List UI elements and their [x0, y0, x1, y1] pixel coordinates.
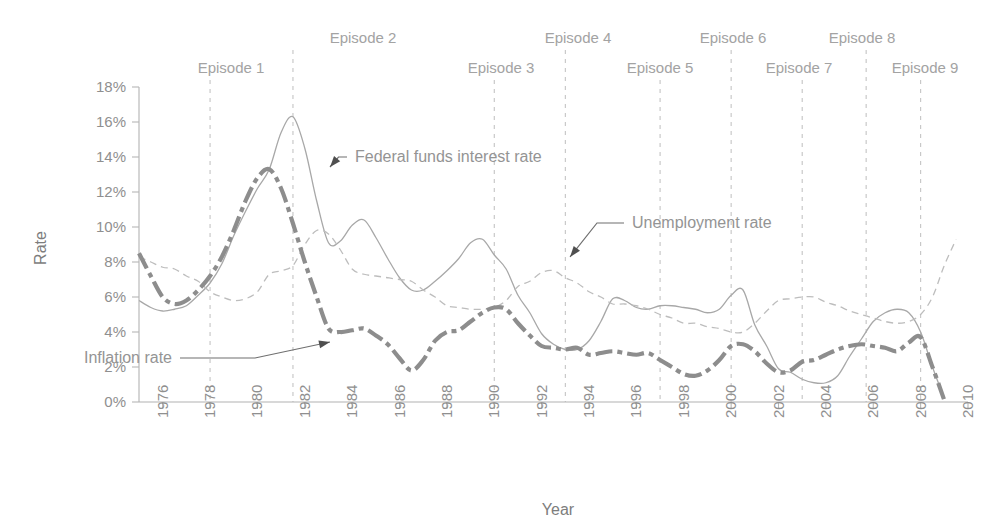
episode-label: Episode 8 — [829, 29, 896, 46]
x-tick-label: 2002 — [770, 385, 787, 418]
y-tick-label: 12% — [96, 183, 126, 200]
chart-plot-area: 0%2%4%6%8%10%12%14%16%18% 19761978198019… — [0, 0, 1004, 527]
episode-label: Episode 4 — [545, 29, 612, 46]
x-tick-label: 1980 — [248, 385, 265, 418]
x-tick-label: 2006 — [864, 385, 881, 418]
y-tick-label: 0% — [104, 393, 126, 410]
episode-label: Episode 6 — [700, 29, 767, 46]
annotation-leader-line — [180, 342, 330, 358]
y-tick-label: 16% — [96, 113, 126, 130]
episode-label: Episode 9 — [892, 59, 959, 76]
y-axis-title: Rate — [32, 231, 49, 265]
x-tick-label: 1984 — [343, 385, 360, 418]
episode-label: Episode 5 — [627, 59, 694, 76]
chart-axes — [132, 87, 968, 409]
series-annotation-label: Inflation rate — [84, 349, 172, 366]
series-line-unemployment-rate — [139, 230, 956, 333]
x-tick-label: 1982 — [296, 385, 313, 418]
x-tick-label: 1986 — [391, 385, 408, 418]
x-tick-label: 1996 — [627, 385, 644, 418]
x-tick-label: 2004 — [817, 385, 834, 418]
x-axis-title: Year — [542, 501, 575, 518]
x-tick-label: 2000 — [722, 385, 739, 418]
episode-label: Episode 7 — [766, 59, 833, 76]
x-axis-ticks — [163, 402, 968, 409]
annotation-arrowhead — [570, 246, 580, 257]
series-annotation-label: Unemployment rate — [632, 214, 772, 231]
series-line-inflation-rate — [139, 169, 944, 400]
y-tick-label: 10% — [96, 218, 126, 235]
y-tick-label: 6% — [104, 288, 126, 305]
annotation-arrowhead — [318, 340, 330, 348]
episode-label: Episode 1 — [198, 59, 265, 76]
x-tick-label: 2010 — [959, 385, 976, 418]
episode-label: Episode 3 — [468, 59, 535, 76]
x-tick-label: 2008 — [912, 385, 929, 418]
x-tick-label: 1976 — [154, 385, 171, 418]
y-tick-label: 18% — [96, 78, 126, 95]
chart-series-lines — [139, 116, 956, 400]
series-annotation-label: Federal funds interest rate — [355, 148, 542, 165]
x-tick-label: 1994 — [580, 385, 597, 418]
x-tick-label: 1978 — [201, 385, 218, 418]
y-tick-label: 8% — [104, 253, 126, 270]
episode-label: Episode 2 — [330, 29, 397, 46]
economic-rates-chart: 0%2%4%6%8%10%12%14%16%18% 19761978198019… — [0, 0, 1004, 527]
x-tick-label: 1992 — [533, 385, 550, 418]
y-tick-label: 4% — [104, 323, 126, 340]
x-tick-label: 1998 — [675, 385, 692, 418]
x-tick-label: 1990 — [485, 385, 502, 418]
y-tick-label: 14% — [96, 148, 126, 165]
x-tick-label: 1988 — [438, 385, 455, 418]
series-annotations: Federal funds interest rateUnemployment … — [84, 148, 772, 366]
episode-labels: Episode 1Episode 2Episode 3Episode 4Epis… — [198, 29, 959, 76]
